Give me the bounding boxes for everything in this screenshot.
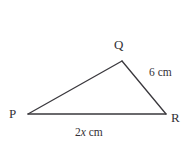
vertex-label-p: P <box>9 107 16 120</box>
side-pr-unit: cm <box>86 126 103 138</box>
side-pq-line <box>28 61 122 114</box>
triangle-diagram: P Q R 6 cm 2x cm <box>0 0 193 149</box>
side-length-label-pr: 2x cm <box>75 127 103 139</box>
vertex-label-r: R <box>171 111 180 124</box>
vertex-label-q: Q <box>114 38 123 51</box>
side-length-label-qr: 6 cm <box>149 67 172 79</box>
